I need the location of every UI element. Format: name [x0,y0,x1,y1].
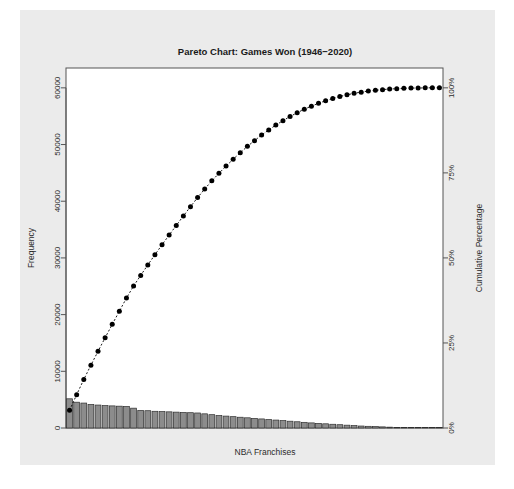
cumulative-marker [302,107,307,112]
cumulative-marker [74,392,79,397]
cumulative-marker [117,309,122,314]
cumulative-marker [160,242,165,247]
bar [387,427,393,428]
bar [124,406,130,428]
cumulative-marker [202,186,207,191]
bar [308,423,314,428]
bar [195,413,201,428]
cumulative-marker [373,88,378,93]
bar [159,412,165,428]
bar [429,427,435,428]
bar [301,422,307,428]
cumulative-marker [344,92,349,97]
cumulative-marker [152,252,157,257]
bar [437,427,443,428]
bar [294,422,300,428]
y-axis-left-tick-label: 10000 [53,360,62,383]
cumulative-marker [209,178,214,183]
bar [188,413,194,428]
bar [259,419,265,428]
y-axis-right-tick-label: 100% [447,78,456,98]
cumulative-marker [295,110,300,115]
chart-title: Pareto Chart: Games Won (1946−2020) [178,46,352,57]
cumulative-marker [366,89,371,94]
cumulative-marker [245,144,250,149]
bar [380,427,386,428]
bar [280,421,286,428]
cumulative-marker [110,322,115,327]
bar [323,424,329,428]
bar [102,406,108,428]
bar [337,425,343,428]
cumulative-marker [337,94,342,99]
cumulative-marker [401,86,406,91]
y-axis-left-tick-label: 40000 [53,190,62,213]
y-axis-left-tick-label: 0 [53,425,62,430]
bar [244,418,250,428]
pareto-chart: Pareto Chart: Games Won (1946−2020) 0100… [20,10,495,465]
bar [223,416,229,428]
cumulative-marker [174,223,179,228]
cumulative-marker [266,128,271,133]
bar [88,404,94,428]
plot-area [66,68,443,428]
cumulative-marker [352,91,357,96]
bar [67,399,73,428]
cumulative-marker [309,104,314,109]
bar [173,412,179,428]
bar [401,427,407,428]
bar [166,412,172,428]
bar [408,427,414,428]
cumulative-marker [224,164,229,169]
cumulative-marker [387,86,392,91]
y-axis-left-tick-label: 50000 [53,133,62,156]
cumulative-marker [81,377,86,382]
bar [216,416,222,428]
bar [316,423,322,428]
cumulative-marker [380,87,385,92]
bar [358,426,364,428]
bar [109,406,115,428]
bar [74,402,80,428]
cumulative-marker [259,133,264,138]
x-axis-title: NBA Franchises [235,447,296,457]
cumulative-marker [273,123,278,128]
bar [344,425,350,428]
cumulative-marker [181,213,186,218]
bar [422,427,428,428]
cumulative-marker [124,296,129,301]
y-axis-right-tick-label: 50% [447,250,456,266]
bar [237,417,243,428]
bar [373,427,379,428]
bar [394,427,400,428]
cumulative-marker [437,85,442,90]
y-axis-right-title: Cumulative Percentage [474,204,484,293]
figure-panel: Pareto Chart: Games Won (1946−2020) 0100… [20,10,495,465]
y-axis-left-title: Frequency [26,227,36,268]
bar [230,417,236,428]
y-axis-right-tick-label: 0% [447,422,456,434]
cumulative-marker [416,86,421,91]
cumulative-marker [323,98,328,103]
bar [131,408,137,428]
cumulative-marker [88,363,93,368]
bar [273,420,279,428]
cumulative-marker [167,233,172,238]
bar [95,405,101,428]
cumulative-marker [330,96,335,101]
cumulative-marker [103,335,108,340]
bar [145,411,151,428]
y-axis-right-tick-label: 25% [447,335,456,351]
bar [365,426,371,428]
cumulative-marker [359,90,364,95]
cumulative-marker [316,101,321,106]
bar [81,403,87,428]
cumulative-marker [238,150,243,155]
bar [202,414,208,428]
cumulative-marker [96,349,101,354]
bar [138,410,144,428]
bar [330,424,336,428]
cumulative-marker [394,86,399,91]
cumulative-marker [188,204,193,209]
cumulative-marker [145,262,150,267]
